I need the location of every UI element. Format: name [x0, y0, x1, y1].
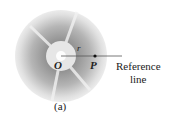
point-label: P — [90, 59, 97, 71]
caption: (a) — [54, 100, 66, 112]
origin-label: O — [54, 59, 62, 71]
radius-label: r — [77, 43, 81, 53]
point-p — [93, 54, 96, 57]
reference-label-line2: line — [130, 73, 147, 85]
reference-label-line1: Reference — [116, 60, 161, 72]
